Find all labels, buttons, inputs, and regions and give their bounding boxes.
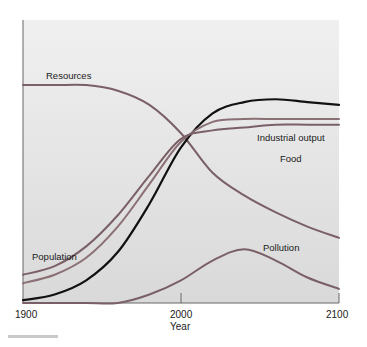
label-pollution: Pollution — [263, 242, 299, 253]
x-tick-2100: 2100 — [326, 309, 349, 320]
x-axis-label: Year — [170, 321, 191, 332]
label-industrial-output: Industrial output — [257, 132, 325, 143]
label-food: Food — [280, 153, 302, 164]
footer-mark — [8, 335, 58, 338]
x-tick-2000: 2000 — [170, 309, 193, 320]
world-model-chart: Resources Industrial output Food Populat… — [0, 0, 367, 347]
x-tick-1900: 1900 — [15, 309, 38, 320]
label-population: Population — [32, 251, 77, 262]
label-resources: Resources — [46, 70, 92, 81]
